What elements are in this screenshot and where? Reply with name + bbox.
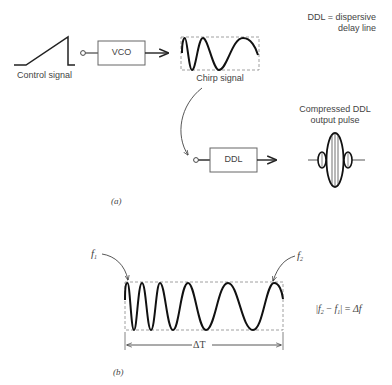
part-a-caption: (a) [111, 196, 122, 207]
bandwidth-equation: |f2 − f1| = Δf [316, 303, 362, 315]
part-b-caption: (b) [113, 367, 124, 378]
f1-label: f1 [91, 247, 97, 260]
chirp-signal-label: Chirp signal [180, 73, 260, 84]
chirp-b-waveform [125, 283, 283, 330]
ddl-legend-line2: delay line [300, 23, 376, 34]
delta-t-label: ΔT [193, 339, 206, 350]
f2-label: f2 [297, 249, 303, 262]
ddl-legend-line1: DDL = dispersive [300, 12, 376, 23]
vco-label: VCO [98, 47, 145, 58]
control-signal-label: Control signal [17, 70, 72, 81]
eq-rhs: Δf [353, 303, 362, 314]
chirp-to-ddl-arrow [181, 88, 202, 155]
f2-label-sub: 2 [300, 256, 303, 262]
compressed-pulse-waveform [308, 133, 365, 187]
ddl-input-terminal [194, 158, 210, 163]
vco-input-terminal [81, 51, 98, 56]
chirp-signal-frame [181, 37, 259, 70]
control-signal-waveform [14, 37, 75, 65]
output-pulse-label-line2: output pulse [290, 115, 380, 126]
eq-equals: = [342, 303, 353, 314]
f2-pointer-arrow [273, 256, 295, 281]
chirp-compression-diagram [0, 0, 392, 385]
output-pulse-label-line1: Compressed DDL [290, 104, 380, 115]
f1-pointer-arrow [102, 254, 128, 280]
chirp-signal-waveform [182, 38, 258, 70]
ddl-label: DDL [210, 154, 257, 165]
f1-label-sub: 1 [94, 254, 97, 260]
eq-minus: − [324, 303, 335, 314]
